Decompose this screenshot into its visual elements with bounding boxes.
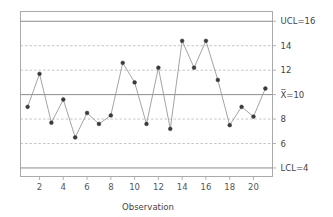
y-right-label: X̅=10 <box>281 89 305 100</box>
x-tick-label: 6 <box>84 182 89 192</box>
x-axis-title: Observation <box>122 202 174 212</box>
data-point-marker <box>192 66 196 70</box>
data-point-marker <box>252 115 256 119</box>
data-point-marker <box>121 61 125 65</box>
y-right-label: 12 <box>281 65 292 75</box>
data-point-marker <box>50 121 54 125</box>
data-point-marker <box>73 135 77 139</box>
y-right-label: UCL=16 <box>281 16 316 26</box>
data-point-marker <box>180 39 184 43</box>
data-point-marker <box>168 127 172 131</box>
data-point-marker <box>85 111 89 115</box>
y-right-label: 6 <box>281 139 286 149</box>
data-point-marker <box>156 66 160 70</box>
x-tick-label: 12 <box>153 182 164 192</box>
data-point-marker <box>109 113 113 117</box>
data-point-marker <box>240 105 244 109</box>
y-right-label: 14 <box>281 41 292 51</box>
chart-canvas: 2468101214161820 UCL=161412X̅=1086LCL=4 … <box>0 0 333 217</box>
data-point-marker <box>145 122 149 126</box>
x-tick-label: 2 <box>37 182 42 192</box>
data-point-marker <box>216 78 220 82</box>
data-point-marker <box>263 87 267 91</box>
data-point-marker <box>61 98 65 102</box>
data-point-marker <box>38 72 42 76</box>
data-point-marker <box>97 122 101 126</box>
x-tick-label: 20 <box>248 182 259 192</box>
data-point-marker <box>228 123 232 127</box>
x-tick-label: 4 <box>61 182 66 192</box>
y-right-label: LCL=4 <box>281 163 309 173</box>
data-point-marker <box>204 39 208 43</box>
data-point-marker <box>133 80 137 84</box>
data-point-marker <box>26 105 30 109</box>
x-tick-label: 8 <box>108 182 113 192</box>
x-tick-label: 10 <box>129 182 140 192</box>
control-chart: 2468101214161820 UCL=161412X̅=1086LCL=4 … <box>0 0 333 217</box>
y-right-label: 8 <box>281 114 286 124</box>
x-tick-label: 16 <box>201 182 212 192</box>
x-tick-label: 18 <box>224 182 235 192</box>
x-tick-label: 14 <box>177 182 188 192</box>
